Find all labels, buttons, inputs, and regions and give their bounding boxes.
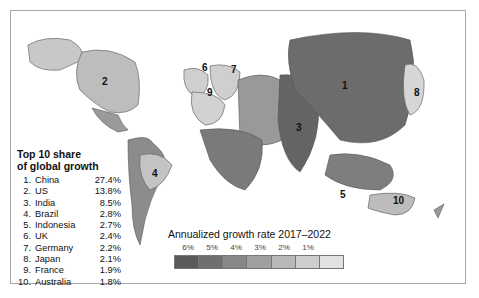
growth-legend: Annualized growth rate 2017–2022 6% 5% 4… bbox=[168, 228, 344, 269]
map-label-france: 9 bbox=[207, 87, 213, 98]
region-indonesia bbox=[325, 154, 393, 190]
legend-swatch bbox=[247, 256, 271, 268]
map-label-us: 2 bbox=[102, 76, 108, 87]
list-item: 5.Indonesia2.7% bbox=[14, 220, 134, 231]
region-nz bbox=[434, 204, 444, 218]
top10-panel: Top 10 share of global growth 1.China27.… bbox=[14, 148, 134, 288]
legend-swatch bbox=[320, 256, 343, 268]
list-item: 2.US13.8% bbox=[14, 186, 134, 197]
map-label-india: 3 bbox=[296, 122, 302, 133]
region-australia bbox=[368, 193, 415, 215]
map-label-japan: 8 bbox=[414, 87, 420, 98]
legend-swatches bbox=[174, 255, 344, 269]
list-item: 4.Brazil2.8% bbox=[14, 209, 134, 220]
legend-title: Annualized growth rate 2017–2022 bbox=[168, 228, 344, 240]
map-label-germany: 7 bbox=[231, 64, 237, 75]
map-label-indonesia: 5 bbox=[340, 189, 346, 200]
legend-ticks: 6% 5% 4% 3% 2% 1% bbox=[176, 243, 344, 252]
list-item: 9.France1.9% bbox=[14, 265, 134, 276]
list-item: 1.China27.4% bbox=[14, 175, 134, 186]
legend-swatch bbox=[296, 256, 320, 268]
panel-title: Top 10 share of global growth bbox=[17, 148, 134, 172]
map-label-china: 1 bbox=[342, 80, 348, 91]
region-africa bbox=[200, 129, 262, 190]
list-item: 6.UK2.4% bbox=[14, 231, 134, 242]
legend-swatch bbox=[223, 256, 247, 268]
map-label-uk: 6 bbox=[202, 62, 208, 73]
region-alaska bbox=[28, 38, 83, 70]
list-item: 8.Japan2.1% bbox=[14, 254, 134, 265]
legend-swatch bbox=[175, 256, 199, 268]
list-item: 3.India8.5% bbox=[14, 198, 134, 209]
map-label-australia: 10 bbox=[393, 195, 404, 206]
legend-swatch bbox=[199, 256, 223, 268]
legend-swatch bbox=[272, 256, 296, 268]
map-label-brazil: 4 bbox=[152, 168, 158, 179]
list-item: 7.Germany2.2% bbox=[14, 243, 134, 254]
list-item: 10.Australia1.8% bbox=[14, 277, 134, 288]
